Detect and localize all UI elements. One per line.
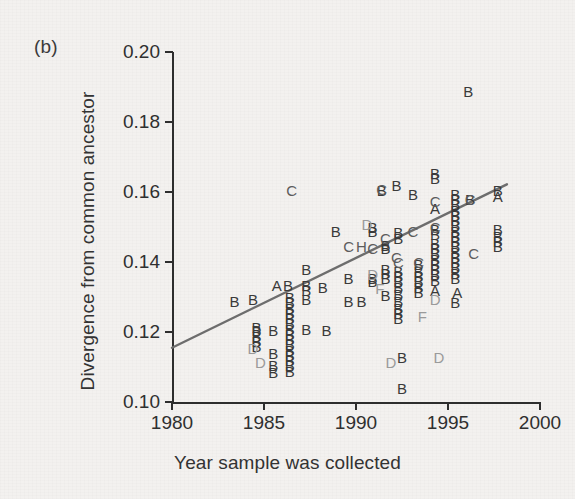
data-point-C: C bbox=[408, 223, 419, 238]
data-point-B: B bbox=[230, 293, 240, 308]
data-point-D: D bbox=[430, 291, 441, 306]
data-point-B: B bbox=[414, 284, 424, 299]
data-point-B: B bbox=[463, 83, 473, 98]
data-point-H: H bbox=[356, 239, 367, 254]
data-point-B: B bbox=[408, 186, 418, 201]
data-point-A: A bbox=[272, 277, 282, 292]
data-point-C: C bbox=[430, 193, 441, 208]
x-tick-label: 1990 bbox=[335, 412, 377, 434]
data-point-D: D bbox=[386, 354, 397, 369]
y-axis-title: Divergence from common ancestor bbox=[77, 91, 99, 391]
data-point-C: C bbox=[393, 255, 404, 270]
data-point-B: B bbox=[430, 272, 440, 287]
data-point-B: B bbox=[397, 381, 407, 396]
data-point-C: C bbox=[380, 230, 391, 245]
x-tick-label: 1995 bbox=[427, 412, 469, 434]
data-point-B: B bbox=[450, 295, 460, 310]
data-point-C: C bbox=[286, 183, 297, 198]
y-tick-label: 0.12 bbox=[123, 321, 160, 343]
data-point-B: B bbox=[301, 321, 311, 336]
data-point-B: B bbox=[493, 183, 503, 198]
data-point-B: B bbox=[285, 363, 295, 378]
data-point-C: C bbox=[367, 241, 378, 256]
data-point-B: B bbox=[248, 291, 258, 306]
data-point-B: B bbox=[397, 349, 407, 364]
figure-panel: (b) Divergence from common ancestor Year… bbox=[0, 0, 575, 499]
x-axis-title: Year sample was collected bbox=[0, 452, 575, 474]
data-point-B: B bbox=[268, 323, 278, 338]
data-point-B: B bbox=[268, 365, 278, 380]
data-point-B: B bbox=[493, 239, 503, 254]
data-point-C: C bbox=[468, 246, 479, 261]
y-tick-label: 0.14 bbox=[123, 251, 160, 273]
y-tick-label: 0.18 bbox=[123, 111, 160, 133]
y-tick-label: 0.16 bbox=[123, 181, 160, 203]
x-tick-label: 1985 bbox=[243, 412, 285, 434]
data-point-F: F bbox=[418, 309, 427, 324]
data-point-D: D bbox=[362, 216, 373, 231]
data-point-C: C bbox=[376, 181, 387, 196]
data-point-B: B bbox=[322, 323, 332, 338]
data-point-D: D bbox=[433, 349, 444, 364]
data-point-C: C bbox=[430, 220, 441, 235]
x-tick-label: 1980 bbox=[151, 412, 193, 434]
y-tick-label: 0.10 bbox=[123, 391, 160, 413]
data-point-B: B bbox=[331, 223, 341, 238]
data-point-B: B bbox=[344, 293, 354, 308]
panel-label: (b) bbox=[34, 36, 58, 58]
y-tick-label: 0.20 bbox=[123, 41, 160, 63]
data-point-B: B bbox=[357, 293, 367, 308]
data-point-B: B bbox=[391, 178, 401, 193]
data-point-F: F bbox=[375, 281, 384, 296]
data-point-B: B bbox=[393, 230, 403, 245]
data-point-B: B bbox=[318, 279, 328, 294]
data-points-layer: AAAAABBBBBBBBBBBBBBBBBBBBBBBBBBBBBBBBBBB… bbox=[172, 52, 540, 404]
x-tick-label: 2000 bbox=[519, 412, 561, 434]
plot-area: 0.100.120.140.160.180.20 198019851990199… bbox=[172, 52, 540, 404]
data-point-C: C bbox=[465, 192, 476, 207]
data-point-D: D bbox=[255, 354, 266, 369]
data-point-B: B bbox=[301, 262, 311, 277]
data-point-C: C bbox=[343, 239, 354, 254]
data-point-B: B bbox=[430, 171, 440, 186]
data-point-C: C bbox=[413, 255, 424, 270]
data-point-B: B bbox=[301, 291, 311, 306]
data-point-B: B bbox=[450, 270, 460, 285]
data-point-B: B bbox=[344, 270, 354, 285]
data-point-B: B bbox=[393, 311, 403, 326]
